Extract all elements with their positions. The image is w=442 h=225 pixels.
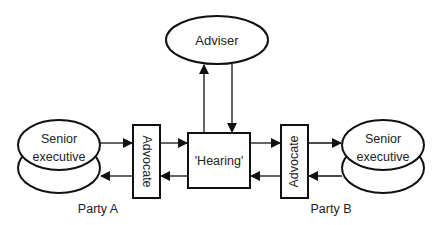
adviser-node: Adviser (166, 16, 268, 64)
party-a-label: Party A (78, 202, 119, 216)
hearing-label: 'Hearing' (195, 154, 244, 168)
hearing-node: 'Hearing' (188, 133, 250, 188)
party-b-label: Party B (311, 202, 352, 216)
advocate-b-node: Advocate (281, 125, 308, 198)
executive-b-label-line1: Senior (365, 132, 401, 146)
advocate-a-node: Advocate (133, 125, 160, 198)
adviser-label: Adviser (195, 33, 239, 48)
executive-a-label-line2: executive (33, 150, 86, 164)
executive-a-node: Senior executive (18, 120, 100, 193)
executive-a-label-line1: Senior (41, 132, 77, 146)
executive-b-node: Senior executive (342, 120, 424, 193)
advocate-b-label: Advocate (287, 135, 301, 187)
diagram-canvas: Adviser Senior executive Senior executiv… (0, 0, 442, 225)
executive-b-label-line2: executive (357, 150, 410, 164)
advocate-a-label: Advocate (140, 135, 154, 187)
